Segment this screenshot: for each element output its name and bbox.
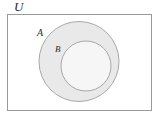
set-b-circle xyxy=(61,41,111,91)
set-a-label: A xyxy=(36,27,44,38)
venn-diagram-canvas: U A B xyxy=(0,0,158,119)
venn-diagram-figure: U A B xyxy=(0,0,158,119)
universe-label: U xyxy=(14,0,25,14)
set-b-label: B xyxy=(55,44,61,54)
